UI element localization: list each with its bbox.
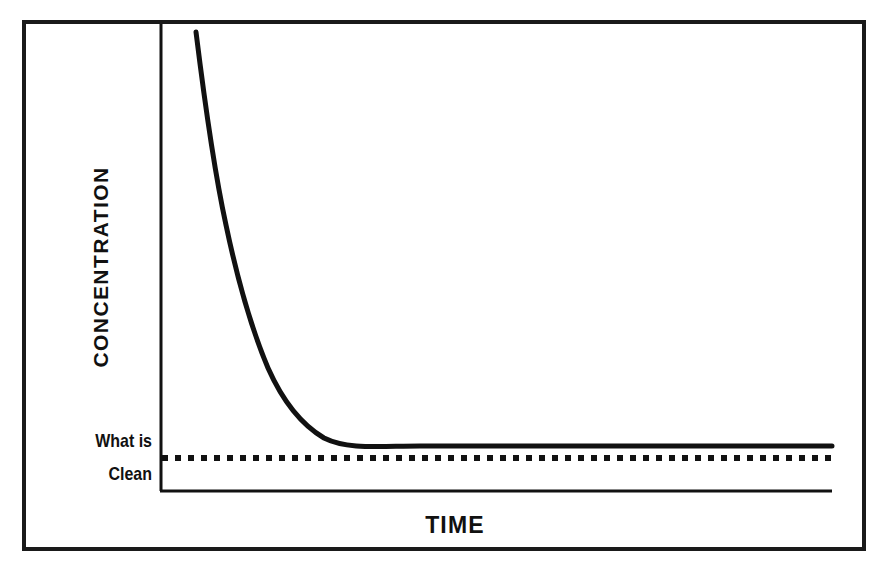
clean-threshold-label-line2: Clean xyxy=(24,463,152,485)
chart-plot-area xyxy=(0,0,889,572)
y-axis-title: CONCENTRATION xyxy=(88,132,114,402)
clean-threshold-label-line1: What is xyxy=(24,430,152,452)
x-axis-title: TIME xyxy=(335,512,575,539)
concentration-decay-curve xyxy=(196,32,832,447)
figure-container: CONCENTRATION TIME What is Clean xyxy=(0,0,889,572)
